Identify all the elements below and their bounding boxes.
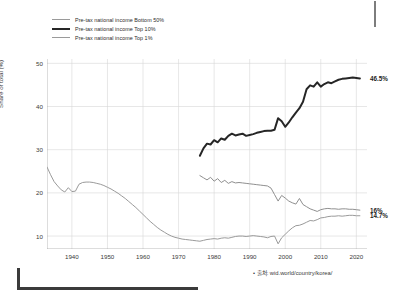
y-tick-30: 30	[29, 146, 43, 153]
legend-swatch-top10	[52, 28, 70, 30]
legend-swatch-top1	[52, 37, 70, 38]
series-lines	[47, 78, 360, 244]
source-note: • 출처: wid.world/country/korea/	[253, 268, 332, 277]
legend-item-bottom50: Pre-tax national income Bottom 50%	[52, 15, 282, 24]
y-tick-10: 10	[29, 233, 43, 240]
x-tick-2020: 2020	[342, 253, 370, 260]
x-tick-1990: 1990	[236, 253, 264, 260]
y-axis-title: Share of total (%)	[0, 60, 4, 108]
legend-item-top10: Pre-tax national income Top 10%	[52, 24, 282, 33]
legend-swatch-bottom50	[52, 19, 70, 20]
x-tick-1960: 1960	[129, 253, 157, 260]
legend-label-bottom50: Pre-tax national income Bottom 50%	[75, 17, 164, 23]
plot-area	[47, 59, 367, 249]
series-line-2	[200, 176, 360, 212]
decorative-top-rule	[374, 1, 376, 27]
chart-legend: Pre-tax national income Bottom 50% Pre-t…	[52, 15, 282, 42]
y-tick-50: 50	[29, 60, 43, 67]
y-tick-40: 40	[29, 103, 43, 110]
y-tick-20: 20	[29, 189, 43, 196]
end-label-top10: 46.5%	[370, 75, 388, 82]
chart-page: Pre-tax national income Bottom 50% Pre-t…	[0, 0, 401, 301]
series-line-1	[200, 78, 360, 156]
x-tick-1940: 1940	[58, 253, 86, 260]
x-tick-1970: 1970	[165, 253, 193, 260]
x-tick-2010: 2010	[307, 253, 335, 260]
chart-svg	[47, 59, 367, 249]
x-tick-1980: 1980	[200, 253, 228, 260]
legend-label-top10: Pre-tax national income Top 10%	[75, 26, 156, 32]
gridlines	[47, 59, 367, 249]
end-label-bottom50: 14.7%	[370, 212, 388, 219]
x-tick-2000: 2000	[271, 253, 299, 260]
legend-label-top1: Pre-tax national income Top 1%	[75, 35, 153, 41]
series-line-0	[47, 167, 360, 244]
axis-lines	[47, 59, 367, 249]
x-tick-1950: 1950	[93, 253, 121, 260]
decorative-bracket-horizontal	[17, 287, 198, 290]
legend-item-top1: Pre-tax national income Top 1%	[52, 33, 282, 42]
